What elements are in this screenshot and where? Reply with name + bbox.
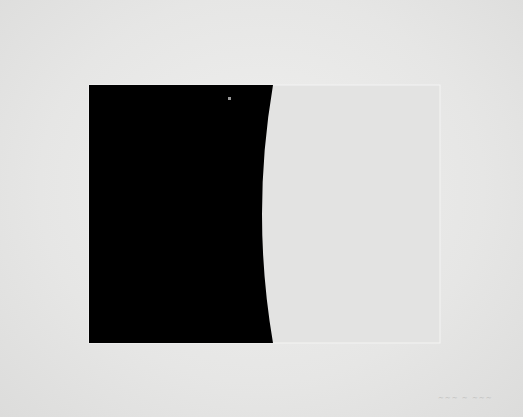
signature: ~~~ ~ ~~~ (438, 394, 493, 402)
speck (228, 97, 231, 100)
black-field (89, 85, 273, 343)
artwork (0, 0, 523, 417)
